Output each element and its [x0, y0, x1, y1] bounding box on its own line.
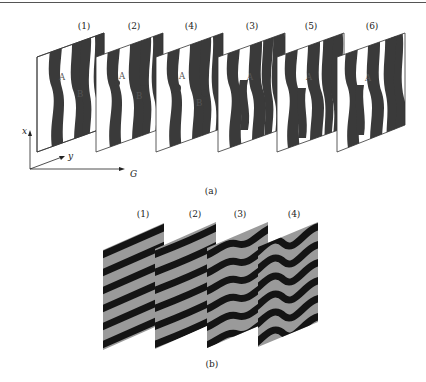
axis-x-label: x	[22, 126, 27, 136]
marker-a-panel-5: A	[305, 72, 313, 82]
panel-a-1-label: (1)	[78, 21, 91, 31]
marker-b-panel-4: B	[196, 98, 202, 108]
panel-b-1-label: (1)	[137, 209, 150, 219]
marker-b-panel-1: B	[77, 89, 83, 99]
panel-a-3-label: (3)	[246, 21, 259, 31]
panel-a-5-label: (5)	[305, 21, 318, 31]
marker-a-panel-1: A	[58, 72, 66, 82]
caption-a: (a)	[205, 186, 217, 196]
panel-a-6	[337, 28, 406, 158]
marker-a-panel-2: A	[118, 71, 126, 81]
marker-a-panel-6: A	[364, 73, 372, 83]
marker-a-panel-3: A	[246, 72, 254, 82]
marker-b-panel-2: B	[136, 91, 142, 101]
panel-a-4-label: (4)	[185, 21, 198, 31]
marker-a-panel-4: A	[178, 71, 186, 81]
panel-a-4	[156, 28, 228, 158]
axis-y-label: y	[67, 151, 74, 161]
panel-b-4-label: (4)	[288, 209, 301, 219]
panel-b-2-label: (2)	[189, 209, 202, 219]
axis-g-label: G	[130, 169, 137, 179]
panel-a-6-label: (6)	[366, 21, 379, 31]
panel-b-3-label: (3)	[234, 209, 247, 219]
caption-b: (b)	[206, 359, 219, 369]
figure-canvas: (1) (2) (4) (3) (5) (6) A B A B A B A A …	[0, 0, 426, 382]
panel-a-2-label: (2)	[128, 21, 141, 31]
panel-a-5	[277, 28, 346, 158]
